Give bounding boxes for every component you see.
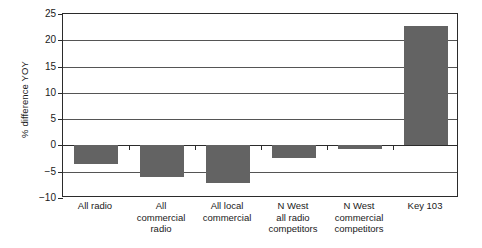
gridline (63, 172, 457, 173)
gridline (63, 40, 457, 41)
y-axis-tick-label: 20 (45, 35, 56, 45)
x-axis-tick (327, 145, 328, 150)
y-axis-tick (58, 40, 63, 41)
x-axis-tick (393, 145, 394, 150)
bar (338, 145, 382, 149)
bar (140, 145, 184, 177)
x-axis-category-label: All local commercial (194, 200, 260, 223)
x-axis-tick (129, 145, 130, 150)
bar (404, 26, 448, 146)
gridline (63, 119, 457, 120)
x-axis-tick (261, 145, 262, 150)
y-axis-tick (58, 93, 63, 94)
y-axis-tick-label: 0 (50, 140, 56, 150)
y-axis-tick-label: 25 (45, 9, 56, 19)
x-axis-category-label: Key 103 (392, 200, 458, 212)
gridline (63, 93, 457, 94)
x-axis-category-label: All radio (62, 200, 128, 212)
x-axis-category-label: N West all radio competitors (260, 200, 326, 235)
x-axis-category-label: N West commercial competitors (326, 200, 392, 235)
bar (206, 145, 250, 182)
zero-line (63, 145, 457, 146)
figure-bar-chart: % difference YOY 2520151050−5−10 All rad… (0, 0, 482, 248)
y-axis-tick-label: −5 (45, 167, 56, 177)
x-axis-tick (195, 145, 196, 150)
y-axis-title: % difference YOY (19, 30, 30, 170)
bar (272, 145, 316, 157)
y-axis-tick (58, 14, 63, 15)
y-axis-tick (58, 198, 63, 199)
bar (74, 145, 118, 164)
y-axis-tick (58, 119, 63, 120)
y-axis-tick (58, 67, 63, 68)
y-axis-tick-label: 15 (45, 62, 56, 72)
y-axis-tick-label: −10 (39, 193, 56, 203)
gridline (63, 67, 457, 68)
plot-area: 2520151050−5−10 (62, 13, 458, 197)
y-axis-tick-label: 10 (45, 88, 56, 98)
y-axis-tick-label: 5 (50, 114, 56, 124)
y-axis-tick (58, 172, 63, 173)
y-axis-tick (58, 145, 63, 146)
x-axis-category-label: All commercial radio (128, 200, 194, 235)
